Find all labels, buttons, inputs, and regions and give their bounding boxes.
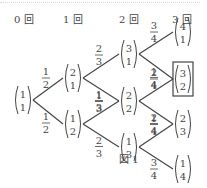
tree-edge: 34 (139, 147, 173, 181)
fraction-denominator: 3 (96, 103, 102, 114)
left-paren (66, 110, 69, 138)
fraction-denominator: 3 (96, 148, 102, 159)
left-paren (176, 110, 179, 138)
tree-node: 12 (66, 110, 81, 138)
tree-node: 14 (176, 155, 191, 183)
tree-edge: 23 (83, 43, 119, 78)
tree-edge: 12 (33, 66, 63, 100)
right-paren (188, 155, 191, 183)
fraction-denominator: 2 (43, 124, 49, 135)
node-top-value: 4 (180, 21, 186, 32)
tree-edge: 23 (83, 124, 119, 159)
node-top-value: 3 (126, 43, 132, 54)
right-paren (28, 86, 31, 114)
edge-probability: 14 (150, 113, 158, 137)
node-bottom-value: 4 (180, 171, 186, 182)
fraction-denominator: 4 (151, 170, 157, 181)
edge-probability: 23 (95, 135, 103, 159)
edge-probability: 24 (150, 67, 158, 91)
edge-probability: 34 (150, 20, 158, 44)
node-top-value: 1 (126, 136, 132, 147)
fraction-denominator: 4 (151, 80, 157, 91)
fraction-numerator: 1 (151, 113, 157, 124)
edge-probability: 12 (42, 111, 50, 135)
tree-edge: 14 (139, 113, 173, 148)
left-paren (176, 65, 179, 93)
figure-caption: 図 1 (119, 151, 139, 166)
fraction-numerator: 1 (43, 111, 49, 122)
right-paren (134, 87, 137, 115)
node-bottom-value: 1 (126, 56, 132, 67)
tree-node: 41 (176, 18, 191, 46)
tree-node: 23 (176, 110, 191, 138)
right-paren (78, 64, 81, 92)
node-top-value: 1 (70, 113, 76, 124)
node-bottom-value: 1 (20, 102, 26, 113)
node-top-value: 2 (180, 113, 186, 124)
tree-node: 32 (173, 62, 193, 96)
left-paren (16, 86, 19, 114)
fraction-denominator: 4 (151, 126, 157, 137)
right-paren (134, 40, 137, 68)
node-top-value: 2 (126, 90, 132, 101)
fraction-numerator: 2 (96, 43, 102, 54)
left-paren (122, 87, 125, 115)
node-bottom-value: 2 (180, 81, 186, 92)
edge-probability: 12 (42, 66, 50, 90)
edge-probability: 23 (95, 43, 103, 67)
node-bottom-value: 1 (180, 34, 186, 45)
fraction-denominator: 4 (151, 33, 157, 44)
tree-node: 21 (66, 64, 81, 92)
tree-edge: 34 (139, 20, 173, 54)
node-top-value: 1 (180, 158, 186, 169)
fraction-numerator: 1 (96, 90, 102, 101)
left-paren (66, 64, 69, 92)
tree-edge: 24 (139, 67, 173, 101)
left-paren (122, 40, 125, 68)
left-paren (176, 18, 179, 46)
fraction-denominator: 2 (43, 79, 49, 90)
tree-node: 31 (122, 40, 137, 68)
fraction-numerator: 1 (43, 66, 49, 77)
fraction-numerator: 3 (151, 157, 157, 168)
node-bottom-value: 1 (70, 80, 76, 91)
right-paren (78, 110, 81, 138)
fraction-numerator: 2 (96, 135, 102, 146)
node-bottom-value: 2 (126, 103, 132, 114)
node-top-value: 2 (70, 67, 76, 78)
node-bottom-value: 2 (70, 126, 76, 137)
fraction-numerator: 3 (151, 20, 157, 31)
node-bottom-value: 3 (180, 126, 186, 137)
left-paren (176, 155, 179, 183)
right-paren (188, 18, 191, 46)
fraction-denominator: 3 (96, 56, 102, 67)
tree-edge: 13 (83, 90, 119, 125)
edge-probability: 34 (150, 157, 158, 181)
tree-edge: 12 (33, 100, 63, 135)
tree-node: 22 (122, 87, 137, 115)
node-top-value: 1 (20, 89, 26, 100)
edge-probability: 13 (95, 90, 103, 114)
right-paren (188, 65, 191, 93)
fraction-numerator: 2 (151, 67, 157, 78)
right-paren (188, 110, 191, 138)
tree-node: 11 (16, 86, 31, 114)
probability-tree: 1212231313233414242414341121123122134132… (0, 0, 207, 188)
node-top-value: 3 (180, 68, 186, 79)
